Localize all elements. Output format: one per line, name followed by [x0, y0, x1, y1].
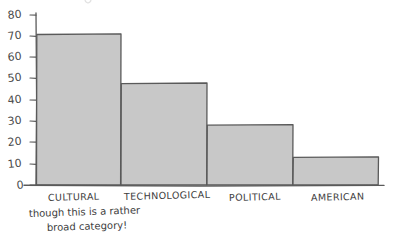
y-tick-label-70: 70: [7, 29, 22, 43]
y-tick-label-40: 40: [7, 93, 22, 107]
y-tick-label-0: 0: [16, 178, 24, 192]
x-label-american: AMERICAN: [311, 191, 365, 203]
bar-american: [293, 157, 379, 185]
y-tick-label-50: 50: [7, 71, 22, 85]
bar-technological: [121, 83, 207, 185]
bar-political: [207, 125, 293, 185]
x-label-political: POLITICAL: [229, 191, 282, 203]
y-tick-label-20: 20: [7, 135, 22, 149]
y-tick-label-10: 10: [7, 157, 22, 171]
x-label-technological: TECHNOLOGICAL: [123, 189, 211, 202]
bar-chart: 80 70 60 50 40 30 20 10 0 CULTURAL: [0, 0, 395, 241]
chart-canvas: 80 70 60 50 40 30 20 10 0 CULTURAL: [0, 0, 395, 241]
y-tick-label-80: 80: [7, 8, 22, 22]
y-tick-label-30: 30: [7, 114, 22, 128]
x-label-cultural: CULTURAL: [48, 191, 100, 203]
bar-cultural: [37, 34, 122, 185]
y-tick-label-60: 60: [7, 50, 22, 64]
x-axis-line: [24, 185, 384, 186]
